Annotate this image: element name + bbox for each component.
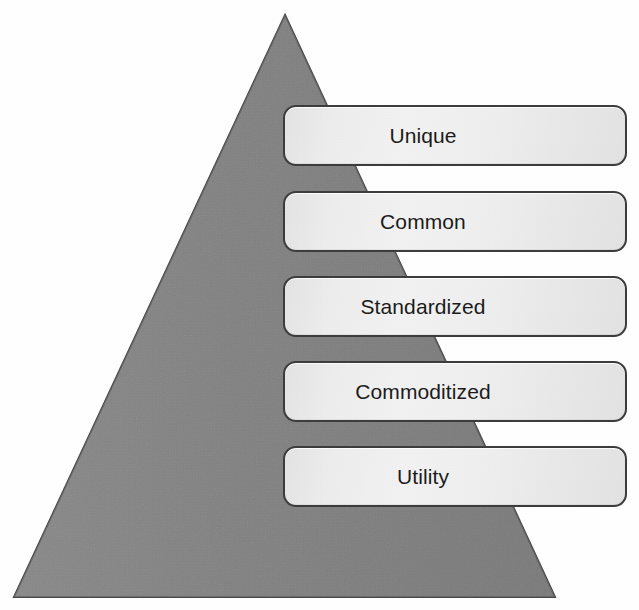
tier-box-unique[interactable]: Unique (283, 105, 627, 166)
tier-box-utility[interactable]: Utility (283, 446, 627, 507)
tier-label-commoditized: Commoditized (355, 381, 490, 402)
tier-label-utility: Utility (397, 466, 449, 487)
diagram-canvas: Unique Common Standardized Commoditized … (0, 0, 639, 610)
tier-box-common[interactable]: Common (283, 191, 627, 252)
tier-label-unique: Unique (389, 125, 456, 146)
tier-label-common: Common (380, 211, 466, 232)
tier-label-standardized: Standardized (361, 296, 486, 317)
tier-box-commoditized[interactable]: Commoditized (283, 361, 627, 422)
tier-box-standardized[interactable]: Standardized (283, 276, 627, 337)
